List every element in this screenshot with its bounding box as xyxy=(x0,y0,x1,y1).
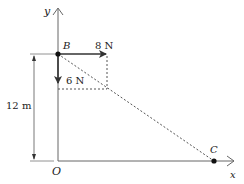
x-axis xyxy=(58,156,234,166)
force-diagram: y x O 8 N 6 N 12 m B C xyxy=(0,0,244,184)
diagram-svg: y x O 8 N 6 N 12 m B C xyxy=(0,0,244,184)
point-c-label: C xyxy=(210,144,218,155)
force-label-8n: 8 N xyxy=(95,40,114,51)
point-b-label: B xyxy=(62,40,70,51)
point-c xyxy=(211,158,216,163)
line-bc xyxy=(58,54,214,161)
y-axis-label: y xyxy=(43,5,51,18)
force-label-6n: 6 N xyxy=(66,75,85,86)
x-axis-label: x xyxy=(230,169,236,180)
origin-label: O xyxy=(52,165,61,178)
y-axis xyxy=(53,8,63,161)
point-b xyxy=(55,51,60,56)
dimension-label: 12 m xyxy=(6,100,32,111)
dimension-12m xyxy=(30,54,56,161)
